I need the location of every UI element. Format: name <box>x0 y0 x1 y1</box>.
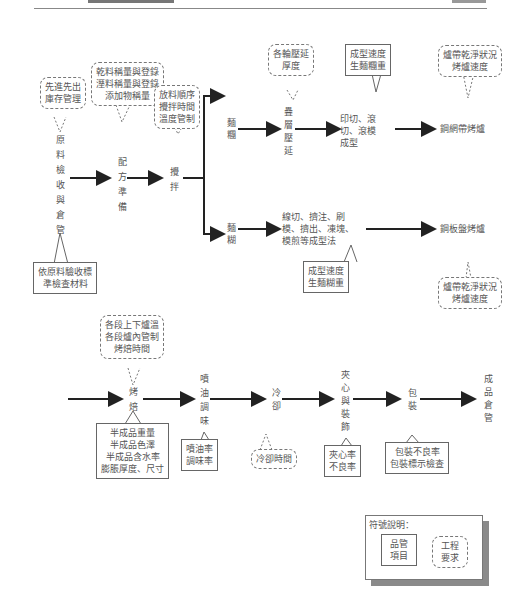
eng-note-cooling-time: 冷卻時間 <box>251 449 297 469</box>
eng-note-roll-thickness: 各輪壓延厚度 <box>268 44 314 76</box>
legend-box: 符號說明： 品管項目 工程要求 <box>365 515 483 580</box>
node-raw-material-inspection: 原料檢收與倉管 <box>54 133 66 238</box>
qc-note-semi-product: 半成品重量半成品色澤半成品含水率膨脹厚度、尺寸 <box>96 423 169 479</box>
node-packaging: 包裝 <box>406 387 418 413</box>
eng-note-mesh-belt: 爐帶乾淨狀況烤爐速度 <box>438 45 502 77</box>
qc-note-raw-check: 依原料驗收標準檢查材料 <box>33 262 97 294</box>
eng-note-plate-belt: 爐帶乾淨狀況烤爐速度 <box>438 277 502 309</box>
legend-qc-item: 品管項目 <box>381 534 417 566</box>
legend-engineering-requirement: 工程要求 <box>432 536 468 568</box>
qc-note-packaging: 包裝不良率包裝標示檢查 <box>385 442 449 474</box>
node-sandwich-decoration: 夾心與裝飾 <box>339 369 351 434</box>
node-oven-mesh-belt: 鋼網帶烤爐 <box>440 123 485 135</box>
eng-note-mixing-control: 放料順序攪拌時間溫度管制 <box>154 85 200 129</box>
node-shape-cut: 印切、滾切、滾模成型 <box>340 113 384 149</box>
legend-title: 符號說明： <box>369 518 414 531</box>
node-shape-batter: 線切、擠注、刷模、擠出、凍塊、模煎等成型法 <box>282 211 362 247</box>
node-dough: 麵糰 <box>225 117 237 141</box>
qc-note-dough-speed: 成型速度生麵糰重 <box>345 44 391 76</box>
qc-note-batter-speed: 成型速度生麵糊重 <box>303 261 349 293</box>
node-cooling: 冷卻 <box>270 387 282 413</box>
node-laminate: 疊層壓延 <box>282 106 294 158</box>
eng-note-oven-control: 各段上下爐溫各段爐內管制烤焙時間 <box>100 315 164 359</box>
node-oven-steel-plate: 鋼板盤烤爐 <box>440 223 485 235</box>
node-bake: 烤焙 <box>127 385 139 415</box>
node-batter: 麵糊 <box>225 222 237 246</box>
node-oil-seasoning: 噴油調味 <box>198 372 210 428</box>
qc-note-sandwich: 夾心率不良率 <box>324 445 361 477</box>
eng-note-fifo: 先進先出庫存管理 <box>40 77 86 109</box>
node-mixing: 攪拌 <box>168 165 180 195</box>
qc-note-oil-seasoning: 噴油率調味率 <box>181 439 218 471</box>
node-finished-goods: 成品倉管 <box>482 373 494 425</box>
node-formula-prep: 配方準備 <box>116 155 128 215</box>
